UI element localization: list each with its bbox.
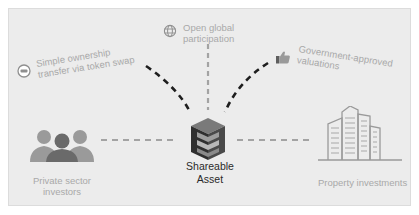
globe-icon	[163, 24, 177, 38]
benefit-global-label: Open global participation	[183, 22, 234, 44]
cube-asset-icon	[188, 118, 228, 160]
people-group-icon	[28, 128, 96, 162]
connector-government	[225, 63, 268, 112]
center-asset-label: Shareable Asset	[178, 160, 242, 186]
left-node-label: Private sector investors	[30, 175, 94, 197]
token-swap-icon	[17, 64, 31, 78]
right-node-label: Property investments	[318, 177, 406, 188]
buildings-icon	[318, 106, 402, 162]
thumbs-up-icon	[275, 50, 291, 65]
connector-token-swap	[146, 66, 190, 112]
